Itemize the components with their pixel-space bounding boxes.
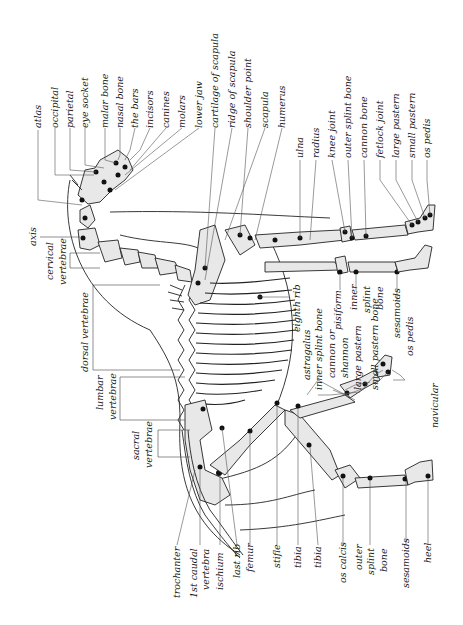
label-sesamoids-fore: sesamoids [391, 288, 402, 338]
label-occipital: occipital [49, 87, 60, 128]
pelvis [182, 400, 243, 558]
label-shannon: shannon [339, 337, 350, 378]
label-lower-jaw: lower jaw [193, 81, 204, 128]
label-astragalus: astragalus [301, 330, 312, 380]
label-knee-joint: knee joint [326, 110, 337, 158]
label-lumbar-vertebrae-1: lumbar [94, 374, 105, 410]
label-cervical-vertebrae-1: cervical [44, 242, 55, 280]
label-inner-splint-bone-hind: inner splint bone [313, 308, 324, 390]
label-parietal: parietal [64, 91, 75, 128]
horse-skeleton-diagram: atlas occipital parietal eye socket mala… [0, 0, 463, 625]
label-incisors: incisors [144, 90, 155, 128]
label-heel: heel [422, 543, 433, 563]
label-lumbar-vertebrae-2: vertebrae [107, 373, 118, 420]
label-cannon-bone: cannon bone [358, 96, 369, 158]
label-molars: molars [176, 95, 187, 128]
label-sacral-vertebrae-2: vertebrae [143, 421, 154, 468]
scapula-bone [188, 225, 255, 305]
label-tibia-2: tibia [312, 546, 323, 568]
label-sacral-vertebrae-1: sacral [130, 431, 141, 460]
foreleg-upper [255, 205, 435, 248]
labels-foreleg: ulna radius knee joint outer splint bone… [294, 75, 432, 159]
label-large-pastern-fore: large pastern [390, 93, 401, 158]
label-ischium: ischium [214, 552, 225, 590]
label-first-caudal-2: vertebra [200, 548, 211, 590]
label-shoulder-point: shoulder point [242, 58, 253, 128]
label-navicular: navicular [429, 382, 440, 428]
label-atlas: atlas [32, 105, 43, 128]
label-os-calcis: os calcis [337, 542, 348, 583]
label-large-pastern-hind: large pastern [352, 325, 363, 390]
label-trochanter: trochanter [171, 545, 182, 598]
foreleg-lower [265, 245, 432, 275]
label-malar-bone: malar bone [99, 73, 110, 128]
label-stifle: stifle [271, 544, 282, 568]
label-outer-splint-hind-1: outer [353, 543, 364, 570]
label-eighth-rib: eighth rib [291, 285, 302, 332]
label-outer-splint-hind-3: bone [378, 548, 389, 572]
label-fetlock-joint: fetlock joint [374, 100, 385, 159]
label-last-rib: last rib [231, 544, 242, 578]
label-axis: axis [27, 227, 38, 246]
labels-bottom: trochanter 1st caudal vertebra ischium l… [171, 538, 433, 598]
label-eye-socket: eye socket [79, 77, 90, 128]
label-outer-splint-hind-2: splint [365, 548, 376, 575]
label-inner-splint-1: inner [348, 283, 359, 310]
label-cervical-vertebrae-2: vertebrae [57, 238, 68, 285]
label-the-bars: the bars [129, 88, 140, 128]
label-os-pedis-fore: os pedis [421, 119, 432, 158]
label-outer-splint-bone-fore: outer splint bone [342, 75, 353, 158]
label-cannon-or: cannon or [326, 328, 337, 378]
skull [70, 150, 133, 204]
label-femur: femur [244, 542, 255, 573]
label-sesamoids-hind: sesamoids [400, 538, 411, 588]
label-tibia-1: tibia [292, 546, 303, 568]
label-humerus: humerus [276, 85, 287, 128]
labels-top: atlas occipital parietal eye socket mala… [32, 33, 287, 128]
label-radius: radius [310, 128, 321, 158]
label-pisiform: pisiform [332, 290, 343, 330]
label-os-pedis-mid: os pedis [404, 317, 415, 356]
label-small-pastern-fore: small pastern [406, 93, 417, 158]
label-scapula: scapula [259, 91, 270, 128]
label-small-pastern-hind: small pastern bone [369, 298, 380, 390]
label-dorsal-vertebrae: dorsal vertebrae [79, 292, 90, 372]
label-cartilage-of-scapula: cartilage of scapula [209, 33, 220, 128]
label-canines: canines [160, 91, 171, 128]
label-ridge-of-scapula: ridge of scapula [226, 50, 237, 128]
label-first-caudal-1: 1st caudal [188, 548, 199, 598]
label-nasal-bone: nasal bone [114, 76, 125, 128]
label-ulna: ulna [294, 137, 305, 158]
